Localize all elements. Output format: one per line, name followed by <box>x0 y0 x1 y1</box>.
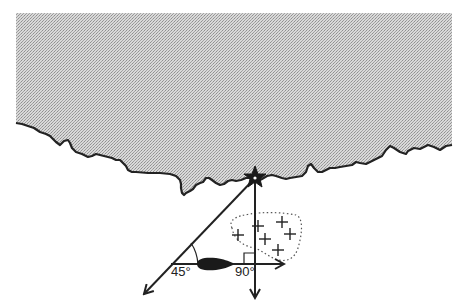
angle-arc-45 <box>191 243 198 264</box>
cross-icon <box>252 220 264 232</box>
angle-label-45: 45° <box>171 264 191 279</box>
cross-icon <box>276 216 288 228</box>
cross-markers <box>232 216 296 256</box>
land-area <box>16 13 452 195</box>
bearing-diagram: 45° 90° <box>0 0 464 308</box>
cross-icon <box>259 233 271 245</box>
ship-icon <box>197 258 233 271</box>
cross-icon <box>284 228 296 240</box>
dotted-region <box>231 213 302 261</box>
angle-label-90: 90° <box>235 264 255 279</box>
right-angle-marker <box>244 253 255 264</box>
cross-icon <box>272 244 284 256</box>
cross-icon <box>232 229 244 241</box>
